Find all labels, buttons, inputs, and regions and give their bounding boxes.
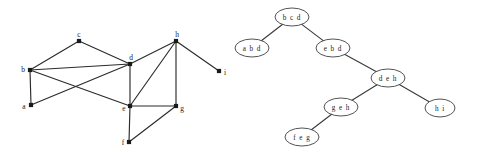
graph-vertex	[29, 103, 33, 107]
graph-vertex-label: g	[180, 104, 184, 113]
graph-vertex	[217, 69, 221, 73]
tree-node-label: a b d	[243, 45, 261, 53]
tree-edge	[350, 84, 378, 101]
graph-edge	[30, 70, 31, 105]
tree-node-label: g e h	[332, 104, 350, 112]
figure-svg: abcdefghi b c da b de b dd e hg e hh if …	[0, 0, 477, 159]
graph-edge	[130, 41, 176, 106]
tree-node: g e h	[324, 98, 358, 116]
tree-node-label: b c d	[283, 14, 301, 22]
graph-vertex-label: a	[22, 102, 26, 111]
tree-edge	[311, 114, 333, 131]
graph-vertex-label: h	[175, 30, 179, 39]
graph-labels-group: abcdefghi	[21, 30, 226, 147]
graph-edge	[30, 64, 130, 70]
graph-vertex-label: d	[129, 53, 133, 62]
tree-edge	[301, 24, 324, 42]
graph-edge	[129, 106, 130, 142]
tree-node: e b d	[316, 39, 350, 57]
graph-edge	[176, 41, 219, 71]
graph-vertex	[28, 68, 32, 72]
tree-node-label: f e g	[293, 134, 310, 142]
tree-edge	[398, 83, 431, 102]
graph-vertex-label: c	[77, 30, 81, 39]
graph-vertex	[77, 39, 81, 43]
tree-node: h i	[425, 99, 455, 117]
graph-vertex-label: f	[122, 138, 125, 147]
graph-vertex-label: i	[224, 68, 226, 77]
tree-edge	[261, 24, 284, 42]
graph-edge	[30, 41, 79, 70]
tree-node: f e g	[285, 128, 319, 146]
graph-vertex	[128, 104, 132, 108]
graph-edge	[30, 70, 130, 106]
graph-edge	[31, 64, 130, 105]
tree-node-label: h i	[435, 105, 445, 113]
tree-node-label: d e h	[379, 75, 397, 83]
graph-vertex	[174, 39, 178, 43]
graph-vertex	[127, 140, 131, 144]
graph-edge	[129, 106, 176, 142]
graph-vertex	[128, 62, 132, 66]
tree-edge	[343, 53, 379, 72]
figure-canvas: abcdefghi b c da b de b dd e hg e hh if …	[0, 0, 477, 159]
graph-edge	[79, 41, 130, 64]
graph-edges-group	[30, 41, 219, 142]
graph-vertex-label: b	[21, 65, 25, 74]
tree-node: b c d	[275, 8, 309, 26]
graph-vertex	[174, 104, 178, 108]
tree-node: a b d	[235, 39, 269, 57]
tree-node: d e h	[371, 69, 405, 87]
graph-edge	[130, 41, 176, 64]
tree-node-label: e b d	[324, 45, 342, 53]
tree-nodes-group: b c da b de b dd e hg e hh if e g	[235, 8, 455, 146]
